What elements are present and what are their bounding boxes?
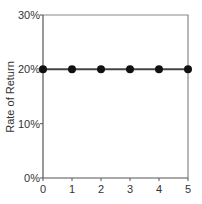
- data-point-marker: [126, 65, 134, 73]
- x-tick-label: 4: [156, 183, 162, 195]
- y-axis-title: Rate of Return: [4, 61, 16, 133]
- y-axis-ticks: 0%10%20%30%: [18, 9, 43, 184]
- y-tick-label: 30%: [18, 9, 40, 21]
- data-point-marker: [155, 65, 163, 73]
- y-tick-label: 0%: [24, 172, 40, 184]
- x-tick-label: 5: [185, 183, 191, 195]
- y-tick-label: 10%: [18, 118, 40, 130]
- plot-frame: [43, 15, 188, 178]
- x-tick-label: 3: [127, 183, 133, 195]
- x-axis-ticks: 012345: [40, 178, 191, 195]
- rate-of-return-chart: 0%10%20%30% 012345 Rate of Return: [0, 0, 202, 204]
- data-point-marker: [97, 65, 105, 73]
- y-tick-label: 20%: [18, 63, 40, 75]
- data-series: [39, 65, 192, 73]
- x-tick-label: 2: [98, 183, 104, 195]
- data-point-marker: [68, 65, 76, 73]
- plot-border: [43, 15, 188, 178]
- x-tick-label: 0: [40, 183, 46, 195]
- data-point-marker: [184, 65, 192, 73]
- data-point-marker: [39, 65, 47, 73]
- x-tick-label: 1: [69, 183, 75, 195]
